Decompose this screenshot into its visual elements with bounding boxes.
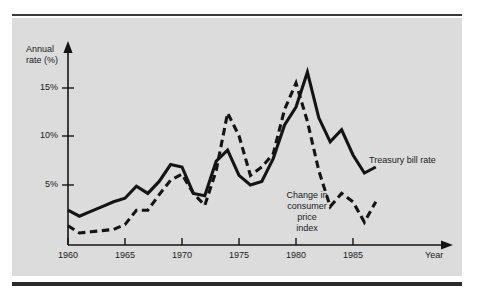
y-tick-label-15: 15%: [30, 82, 58, 93]
x-axis-arrowhead: [441, 240, 453, 249]
x-tick-label-1965: 1965: [108, 250, 142, 261]
x-axis-title: Year: [425, 250, 443, 261]
figure-container: Annual rate (%) 15% 10% 5% 1960 1965 197…: [0, 0, 481, 293]
y-axis-title: Annual rate (%): [26, 44, 58, 66]
x-tick-label-1975: 1975: [222, 250, 256, 261]
y-axis-arrowhead: [63, 41, 72, 53]
x-tick-label-1960: 1960: [51, 250, 85, 261]
x-tick-label-1980: 1980: [279, 250, 313, 261]
y-tick-label-5: 5%: [30, 179, 58, 190]
series-annotation-treasury-bill-rate: Treasury bill rate: [369, 155, 436, 166]
x-tick-label-1985: 1985: [336, 250, 370, 261]
y-tick-label-10: 10%: [30, 130, 58, 141]
x-tick-label-1970: 1970: [165, 250, 199, 261]
axes-group: [62, 41, 453, 250]
series-annotation-change-in-cpi: Change in consumer price index: [275, 190, 339, 234]
